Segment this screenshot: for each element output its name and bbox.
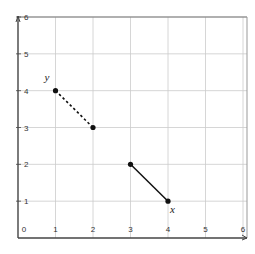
data-point — [128, 162, 133, 167]
x-tick-label: 1 — [53, 225, 58, 234]
data-series — [53, 88, 171, 204]
grid-lines — [18, 17, 247, 238]
x-tick-label: 5 — [203, 225, 208, 234]
y-tick-label: 3 — [24, 124, 29, 133]
y-tick-label: 2 — [24, 160, 29, 169]
data-point — [53, 88, 58, 93]
y-tick-label: 5 — [24, 50, 29, 59]
x-tick-label: 4 — [166, 225, 171, 234]
x-tick-label: 6 — [241, 225, 246, 234]
point-label-x: x — [169, 203, 175, 215]
coordinate-plot: 1234560123456 yx — [0, 0, 255, 254]
point-label-y: y — [44, 71, 50, 83]
x-tick-label: 2 — [91, 225, 96, 234]
y-tick-label: 1 — [24, 197, 29, 206]
data-point — [90, 125, 95, 130]
series-line-x — [131, 164, 169, 201]
x-tick-label: 0 — [22, 225, 27, 234]
series-line-y — [56, 91, 94, 128]
y-tick-label: 4 — [24, 87, 29, 96]
y-tick-label: 6 — [24, 13, 29, 22]
point-labels: yx — [44, 71, 176, 216]
plot-frame — [16, 16, 247, 240]
x-tick-label: 3 — [128, 225, 133, 234]
